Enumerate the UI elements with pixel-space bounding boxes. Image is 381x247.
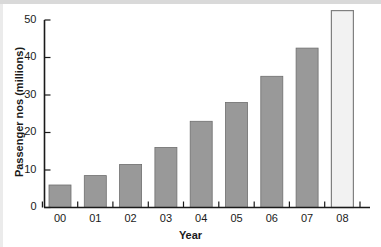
bar-05	[226, 103, 248, 208]
x-tick-label-08: 08	[327, 212, 357, 224]
x-tick-label-02: 02	[116, 212, 146, 224]
bar-00	[49, 185, 71, 208]
x-tick-label-03: 03	[151, 212, 181, 224]
x-tick-label-07: 07	[292, 212, 322, 224]
x-tick-label-01: 01	[80, 212, 110, 224]
x-tick-label-06: 06	[257, 212, 287, 224]
bar-02	[120, 164, 142, 207]
bar-chart-figure: Passenger nos (millions) Year 0102030405…	[0, 0, 381, 247]
x-axis-title: Year	[0, 229, 381, 241]
y-tick-label-0: 0	[15, 200, 37, 212]
y-tick-label-10: 10	[15, 163, 37, 175]
bar-series	[49, 11, 353, 208]
y-axis-ticks	[45, 20, 51, 208]
bar-03	[155, 148, 177, 208]
bar-01	[84, 176, 106, 208]
x-tick-label-05: 05	[222, 212, 252, 224]
y-tick-label-50: 50	[15, 13, 37, 25]
y-tick-label-30: 30	[15, 88, 37, 100]
y-axis-title: Passenger nos (millions)	[13, 22, 25, 202]
x-tick-label-04: 04	[186, 212, 216, 224]
y-tick-label-20: 20	[15, 125, 37, 137]
x-tick-label-00: 00	[45, 212, 75, 224]
bar-08	[331, 11, 353, 208]
bar-07	[296, 48, 318, 207]
chart-plot-area	[0, 0, 381, 247]
bar-06	[261, 76, 283, 207]
bar-04	[190, 121, 212, 207]
y-tick-label-40: 40	[15, 50, 37, 62]
